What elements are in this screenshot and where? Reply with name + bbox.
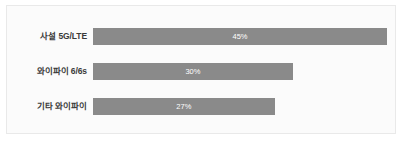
bar-category-label: 와이파이 6/6s [7,63,87,80]
bar-value-label: 45% [93,28,387,45]
bar-value-label: 30% [93,63,293,80]
bar-category-label: 기타 와이파이 [7,98,87,115]
bar-row[interactable]: 와이파이 6/6s 30% [7,63,395,80]
bar-row[interactable]: 기타 와이파이 27% [7,98,395,115]
bar-category-label: 사설 5G/LTE [7,28,87,45]
bar-track: 27% [93,98,387,115]
bar-track: 30% [93,63,387,80]
bar-row[interactable]: 사설 5G/LTE 45% [7,28,395,45]
bar-chart-plot-area: 사설 5G/LTE 45% 와이파이 6/6s 30% 기타 와이파이 27% [7,6,395,133]
bar-chart-card: 사설 5G/LTE 45% 와이파이 6/6s 30% 기타 와이파이 27% [6,5,396,134]
bar-track: 45% [93,28,387,45]
bar-value-label: 27% [93,98,275,115]
